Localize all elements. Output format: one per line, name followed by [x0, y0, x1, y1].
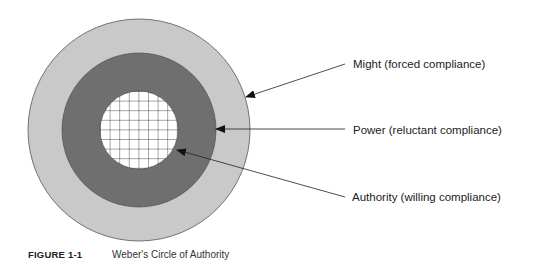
figure-number: FIGURE 1-1	[28, 249, 83, 260]
label-authority: Authority (willing compliance)	[352, 191, 501, 203]
label-power: Power (reluctant compliance)	[353, 124, 502, 136]
arrow-might	[246, 64, 345, 97]
label-might: Might (forced compliance)	[353, 58, 485, 70]
figure-title: Weber's Circle of Authority	[112, 249, 229, 260]
weber-circle-diagram: Might (forced compliance) Power (relucta…	[0, 0, 535, 266]
inner-circle-authority	[100, 91, 178, 169]
